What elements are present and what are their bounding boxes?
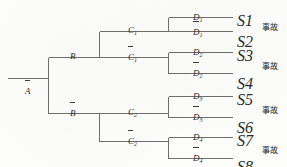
label-branch-D4bar: D4 bbox=[193, 147, 203, 164]
label-branch-C2bar: C2 bbox=[128, 130, 137, 147]
label-branch-D1bar: D1 bbox=[193, 21, 203, 38]
outcome-S7: S7 bbox=[237, 133, 253, 149]
outcome-S4: S4 bbox=[237, 76, 253, 92]
consequence-1: 事故 bbox=[262, 24, 278, 32]
label-root: A bbox=[25, 80, 31, 97]
label-branch-D4: D4 bbox=[193, 127, 203, 143]
label-branch-D2bar: D2 bbox=[193, 62, 203, 79]
consequence-3: 事故 bbox=[262, 107, 278, 115]
label-branch-D3: D3 bbox=[193, 86, 203, 102]
outcome-S3: S3 bbox=[237, 48, 253, 64]
outcome-S1: S1 bbox=[237, 13, 253, 29]
label-branch-B: B bbox=[70, 46, 76, 62]
event-tree-diagram: A B B C1 C1 C2 C2 D1 D1 D2 D2 D3 D3 D4 D… bbox=[0, 0, 287, 167]
consequence-4: 事故 bbox=[262, 147, 278, 155]
consequence-2: 事故 bbox=[262, 63, 278, 71]
outcome-S8: S8 bbox=[237, 159, 253, 167]
label-branch-C1bar: C1 bbox=[128, 46, 137, 63]
label-branch-D3bar: D3 bbox=[193, 106, 203, 123]
outcome-S5: S5 bbox=[237, 92, 253, 108]
label-branch-D2: D2 bbox=[193, 42, 203, 58]
label-branch-Bbar: B bbox=[70, 102, 76, 119]
label-branch-C2: C2 bbox=[128, 102, 137, 118]
label-branch-C1: C1 bbox=[128, 20, 137, 36]
